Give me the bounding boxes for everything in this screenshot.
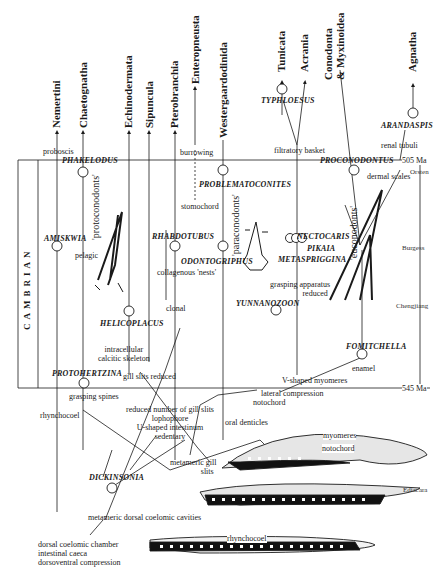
char-metameric-dorsal-coelomic-cavities: metameric dorsal coelomic cavities: [88, 513, 201, 522]
fossil-proconodontus: PROCONODONTUS: [320, 156, 394, 165]
fossil-fomitchella: FOMITCHELLA: [346, 342, 406, 351]
label-notochord: notochord: [322, 444, 354, 453]
char-oral-denticles: oral denticles: [225, 418, 268, 427]
taxon-myxinoidea: & Myxinoidea: [335, 12, 346, 80]
taxon-chaetognatha: Chaetognatha: [78, 62, 89, 128]
fossil-pikaia: PIKAIA: [307, 244, 335, 253]
group-euconodonts: 'euconodonts': [348, 206, 359, 260]
fossil-arandaspis: ARANDASPIS: [381, 121, 433, 130]
taxon-echinodermata: Echinodermata: [123, 55, 134, 128]
char-rhynchocoel: rhynchocoel: [40, 411, 80, 420]
char-intracellular-skeleton: intracellular calcitic skeleton: [98, 345, 150, 363]
taxon-nemertini: Nemertini: [51, 80, 62, 128]
fossil-odontogriphus: ODONTOGRIPHUS: [181, 257, 253, 266]
char-reduced-gill-slits-group: reduced number of gill slits lophophore …: [126, 405, 214, 441]
fossil-rhabdotubus: RHABDOTUBUS: [152, 232, 214, 241]
char-dermal-scales: dermal scales: [367, 172, 410, 181]
fossil-dickinsonia: DICKINSONIA: [89, 473, 144, 482]
fossil-metaspriggina: METASPRIGGINA: [278, 255, 346, 264]
fossil-typhloesus: TYPHLOESUS: [261, 96, 315, 105]
fossil-problematoconites: PROBLEMATOCONITES: [199, 180, 291, 189]
taxon-pterobranchia: Pterobranchia: [169, 60, 180, 128]
fossil-yunnanozoon: YUNNANOZOON: [236, 299, 300, 308]
taxon-tunicata: Tunicata: [276, 31, 287, 72]
char-stomochord: stomochord: [181, 202, 219, 211]
taxon-sipuncula: Sipuncula: [144, 81, 155, 128]
char-proboscis: proboscis: [43, 147, 74, 156]
stratum-orsten: Orsten: [410, 168, 429, 176]
fossil-helicoplacus: HELICOPLACUS: [100, 319, 164, 328]
char-enamel: enamel: [352, 364, 375, 373]
taxon-westergaardodinida: Westergaardodinida: [218, 42, 229, 138]
char-clonal: clonal: [166, 304, 186, 313]
taxon-agnatha: Agnatha: [407, 32, 418, 72]
taxon-acrania: Acrania: [299, 34, 310, 72]
char-pelagic: pelagic: [75, 251, 98, 260]
char-dorsal-coelomic-chamber-group: dorsal coelomic chamber intestinal caeca…: [38, 540, 120, 567]
boundary-545: 545 Ma: [402, 384, 427, 393]
fossil-phakelodus: PHAKELODUS: [62, 156, 118, 165]
char-v-shaped-myomeres: V-shaped myomeres: [282, 376, 347, 385]
taxon-conodonta: Conodonta: [323, 28, 334, 80]
stratum-chengjiang: Chengjiang: [396, 302, 428, 310]
period-cambrian: CAMBRIAN: [22, 248, 32, 331]
char-lateral-compression: lateral compression: [261, 389, 323, 398]
char-filtratory-basket: filtratory basket: [274, 146, 325, 155]
char-renal-tubuli: renal tubuli: [381, 141, 418, 150]
label-myomeres: myomeres: [323, 431, 356, 440]
boundary-505: 505 Ma: [402, 156, 427, 165]
group-protoconodonts: 'protoconodonts': [90, 174, 101, 240]
taxon-enteropneusta: Enteropneusta: [190, 15, 201, 84]
group-paraconodonts: 'paraconodonts': [230, 194, 241, 256]
char-notochord: notochord: [253, 398, 285, 407]
stratum-burgess: Burgess: [402, 244, 424, 252]
char-grasping-apparatus: grasping apparatus reduced: [270, 280, 330, 298]
fossil-amiskwia: AMISKWIA: [44, 234, 87, 243]
char-grasping-spines: grasping spines: [69, 392, 119, 401]
fossil-protohertzina: PROTOHERTZINA: [52, 369, 122, 378]
char-gill-slits-reduced: gill slits reduced: [123, 372, 176, 381]
char-metameric-gill-slits: metameric gill slits: [170, 458, 216, 476]
char-burrowing: burrowing: [180, 148, 213, 157]
fossil-nectocaris: NECTOCARIS: [297, 232, 350, 241]
stratum-ediacara: Ediacara: [403, 486, 427, 494]
char-collagenous-nests: collagenous 'nests': [157, 268, 216, 277]
label-rhynchocoel: rhynchocoel: [227, 534, 267, 543]
